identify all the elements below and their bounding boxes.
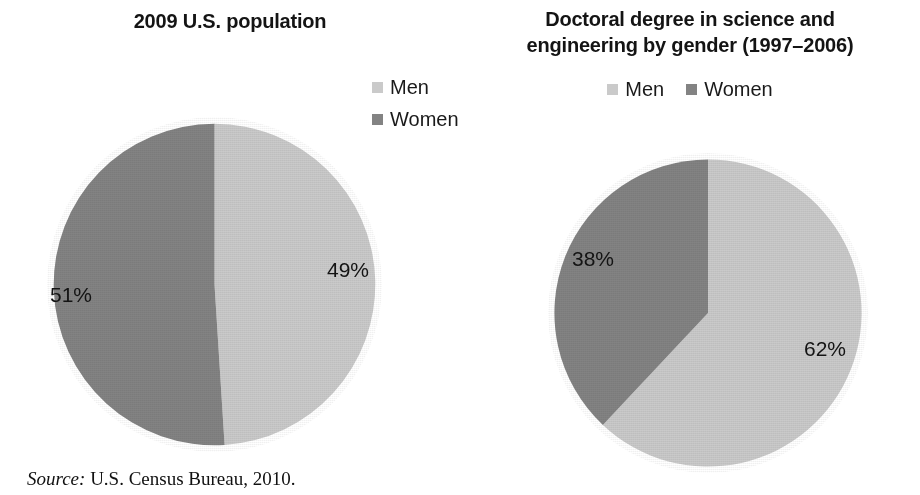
pie-label-women-population: 51%: [50, 283, 92, 307]
legend-population: Men Women: [372, 76, 459, 140]
source-note-label: Source:: [27, 468, 85, 489]
chart-title-line-2: engineering by gender (1997–2006): [460, 32, 920, 58]
pie-label-women-doctoral: 38%: [572, 247, 614, 271]
chart-title-line-1: Doctoral degree in science and: [460, 6, 920, 32]
legend-label-women: Women: [704, 78, 773, 100]
source-note: Source: U.S. Census Bureau, 2010.: [27, 468, 295, 490]
legend-swatch-men-icon: [372, 82, 383, 93]
pie-label-men-population: 49%: [327, 258, 369, 282]
legend-swatch-men-icon: [607, 84, 618, 95]
legend-swatch-women-icon: [686, 84, 697, 95]
pie-slice-men: [215, 124, 376, 445]
legend-label-men: Men: [625, 78, 664, 100]
pie-slices-population: [47, 117, 382, 452]
pie-chart-doctoral: [548, 153, 868, 473]
legend-item-women: Women: [686, 78, 773, 100]
legend-doctoral: Men Women: [460, 78, 920, 100]
pie-chart-population: [47, 117, 382, 452]
pie-label-men-doctoral: 62%: [804, 337, 846, 361]
legend-item-women: Women: [372, 108, 459, 130]
source-note-text: U.S. Census Bureau, 2010.: [85, 468, 295, 489]
legend-label-women: Women: [390, 108, 459, 130]
pie-slices-doctoral: [548, 153, 868, 473]
chart-title-line-1: 2009 U.S. population: [0, 8, 460, 34]
chart-title-population: 2009 U.S. population: [0, 8, 460, 34]
legend-item-men: Men: [372, 76, 459, 98]
legend-label-men: Men: [390, 76, 429, 98]
legend-item-men: Men: [607, 78, 664, 100]
chart-title-doctoral: Doctoral degree in science and engineeri…: [460, 6, 920, 58]
chart-panel-population: 2009 U.S. population Men Women 51% 49%: [0, 0, 460, 495]
